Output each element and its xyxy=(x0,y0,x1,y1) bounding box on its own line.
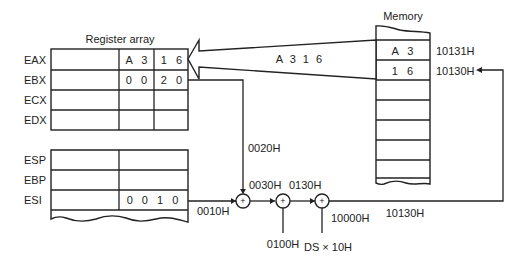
memory-address-label: 10130H xyxy=(436,65,475,77)
register-name: EAX xyxy=(24,54,47,66)
register-row-ecx: ECX xyxy=(24,94,47,106)
arrowhead-icon xyxy=(476,67,482,73)
ebx-output-label: 0020H xyxy=(248,142,280,154)
diagram-canvas: Register array EAX A 3 1 6 EBX 0 0 2 0 E… xyxy=(0,0,527,262)
register-array-title: Register array xyxy=(85,33,155,45)
segment-base-label: 10000H xyxy=(331,212,370,224)
register-low-byte: 2 0 xyxy=(161,74,185,86)
memory-title: Memory xyxy=(383,10,423,22)
arrowhead-icon xyxy=(270,198,275,204)
register-value: 0 0 1 0 xyxy=(127,194,182,206)
register-name: ESP xyxy=(24,154,46,166)
arrowhead-icon xyxy=(310,198,315,204)
register-row-edx: EDX xyxy=(24,114,47,126)
ebx-connector xyxy=(188,80,243,193)
register-high-byte: 0 0 xyxy=(126,74,150,86)
register-row-esp: ESP xyxy=(24,154,46,166)
memory-address-label: 10131H xyxy=(436,45,475,57)
sum1-label: 0030H xyxy=(249,179,281,191)
memory-cell-10130h: 1 6 10130H xyxy=(392,65,475,77)
adder-symbol: + xyxy=(240,196,245,206)
segment-input-label: DS × 10H xyxy=(304,241,352,253)
displacement-label: 0100H xyxy=(267,238,299,250)
memory-cell-value: A 3 xyxy=(392,45,417,57)
register-name: ECX xyxy=(24,94,47,106)
arrowhead-icon xyxy=(240,189,246,194)
register-name: EBP xyxy=(24,174,46,186)
arrowhead-icon xyxy=(231,198,236,204)
pointer-register-table xyxy=(51,150,188,222)
register-row-ebp: EBP xyxy=(24,174,46,186)
register-name: ESI xyxy=(24,194,42,206)
esi-output-label: 0010H xyxy=(197,205,229,217)
memory-cell-10131h: A 3 10131H xyxy=(392,45,475,57)
adder-1: + xyxy=(236,194,250,208)
physical-address-label: 10130H xyxy=(386,207,425,219)
register-high-byte: A 3 xyxy=(126,54,151,66)
register-name: EBX xyxy=(24,74,47,86)
sum2-label: 0130H xyxy=(289,179,321,191)
register-low-byte: 1 6 xyxy=(161,54,185,66)
memory-cell-value: 1 6 xyxy=(392,65,416,77)
adder-symbol: + xyxy=(319,196,324,206)
adder-symbol: + xyxy=(280,196,285,206)
adder-2: + xyxy=(276,194,290,208)
data-transfer-label: A 3 1 6 xyxy=(276,53,324,65)
register-name: EDX xyxy=(24,114,47,126)
adder-3: + xyxy=(315,194,329,208)
